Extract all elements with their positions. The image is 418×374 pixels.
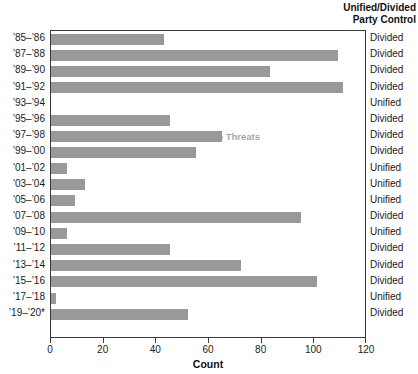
party-control-column-header: Unified/Divided Party Control	[296, 2, 416, 26]
y-axis-tick-label: ’91–’92	[0, 79, 48, 95]
bar-row	[51, 161, 365, 177]
bar	[51, 179, 85, 190]
party-control-value: Divided	[370, 143, 418, 159]
bar-row	[51, 241, 365, 257]
party-control-values: DividedDividedDividedDividedUnifiedDivid…	[370, 30, 418, 321]
bar-row	[51, 193, 365, 209]
bar-row	[51, 274, 365, 290]
party-control-value: Divided	[370, 240, 418, 256]
x-axis-tick-label: 40	[150, 344, 161, 355]
bar-row	[51, 63, 365, 79]
bar-row	[51, 290, 365, 306]
x-axis-tick-label: 0	[47, 344, 53, 355]
bar	[51, 228, 67, 239]
party-control-value: Divided	[370, 257, 418, 273]
x-axis-tick	[50, 338, 51, 343]
bar	[51, 131, 222, 142]
x-axis-tick	[261, 338, 262, 343]
y-axis-tick-label: ’19–’20*	[0, 305, 48, 321]
bar	[51, 244, 170, 255]
party-control-value: Divided	[370, 62, 418, 78]
y-axis-tick-label: ’05–’06	[0, 192, 48, 208]
x-axis-tick	[208, 338, 209, 343]
x-axis-tick-label: 120	[358, 344, 375, 355]
party-control-header-line2: Party Control	[296, 14, 416, 26]
y-axis-tick-label: ’87–’88	[0, 46, 48, 62]
x-axis-tick-label: 60	[202, 344, 213, 355]
party-control-value: Unified	[370, 95, 418, 111]
y-axis-tick-label: ’01–’02	[0, 160, 48, 176]
bar-row	[51, 47, 365, 63]
bar-row	[51, 306, 365, 322]
x-axis-tick-label: 100	[305, 344, 322, 355]
party-control-header-line1: Unified/Divided	[296, 2, 416, 14]
party-control-value: Unified	[370, 289, 418, 305]
bar-row	[51, 80, 365, 96]
bar-row	[51, 209, 365, 225]
x-axis-tick-label: 20	[97, 344, 108, 355]
bar-row	[51, 128, 365, 144]
x-axis: 020406080100120	[50, 338, 366, 339]
x-axis-tick-label: 80	[255, 344, 266, 355]
bar	[51, 276, 317, 287]
party-control-value: Divided	[370, 273, 418, 289]
y-axis-tick-label: ’15–’16	[0, 273, 48, 289]
y-axis-tick-label: ’85–’86	[0, 30, 48, 46]
y-axis-tick-label: ’09–’10	[0, 224, 48, 240]
y-axis-tick-label: ’89–’90	[0, 62, 48, 78]
party-control-value: Divided	[370, 30, 418, 46]
y-axis-tick-label: ’13–’14	[0, 257, 48, 273]
party-control-value: Unified	[370, 192, 418, 208]
y-axis-tick-label: ’17–’18	[0, 289, 48, 305]
x-axis-tick	[103, 338, 104, 343]
party-control-value: Divided	[370, 127, 418, 143]
y-axis-tick-label: ’97–’98	[0, 127, 48, 143]
party-control-value: Unified	[370, 160, 418, 176]
party-control-value: Divided	[370, 305, 418, 321]
y-axis-tick-label: ’99–’00	[0, 143, 48, 159]
party-control-value: Unified	[370, 176, 418, 192]
bar	[51, 309, 188, 320]
party-control-value: Divided	[370, 208, 418, 224]
bar	[51, 147, 196, 158]
y-axis-tick-label: ’93–’94	[0, 95, 48, 111]
y-axis-tick-label: ’95–’96	[0, 111, 48, 127]
y-axis-tick-label: ’07–’08	[0, 208, 48, 224]
bar-row	[51, 112, 365, 128]
bar	[51, 50, 338, 61]
veto-count-bar-chart: Unified/Divided Party Control ’85–’86’87…	[0, 0, 418, 374]
bar	[51, 163, 67, 174]
x-axis-title: Count	[50, 358, 366, 370]
bar-row	[51, 144, 365, 160]
bar-row	[51, 177, 365, 193]
bar-row	[51, 225, 365, 241]
party-control-value: Unified	[370, 224, 418, 240]
x-axis-tick	[313, 338, 314, 343]
y-axis-tick-label: ’03–’04	[0, 176, 48, 192]
bar-row	[51, 96, 365, 112]
y-axis-tick-label: ’11–’12	[0, 240, 48, 256]
bar	[51, 115, 170, 126]
party-control-value: Divided	[370, 79, 418, 95]
x-axis-tick	[155, 338, 156, 343]
bar	[51, 34, 164, 45]
bar	[51, 66, 270, 77]
bar-row	[51, 258, 365, 274]
x-axis-tick	[365, 338, 366, 343]
y-axis-category-labels: ’85–’86’87–’88’89–’90’91–’92’93–’94’95–’…	[0, 30, 48, 321]
party-control-value: Divided	[370, 111, 418, 127]
bar-row	[51, 31, 365, 47]
bar	[51, 260, 241, 271]
party-control-value: Divided	[370, 46, 418, 62]
plot-area: Vetoes Veto Threats	[50, 30, 366, 338]
bar	[51, 195, 75, 206]
bar	[51, 212, 301, 223]
bar	[51, 293, 56, 304]
bar	[51, 82, 343, 93]
